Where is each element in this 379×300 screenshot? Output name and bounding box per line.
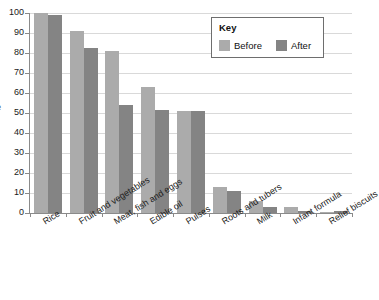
y-tick-label: 90	[14, 28, 24, 37]
legend: Key Before After	[211, 17, 324, 58]
bar-before	[177, 111, 191, 213]
y-tick-label: 20	[14, 168, 24, 177]
legend-label-before: Before	[234, 41, 262, 51]
y-tick-label: 70	[14, 68, 24, 77]
bar-after	[48, 15, 62, 213]
y-axis-tick-labels: 100 90 80 70 60 50 40 30 20 10 0	[0, 0, 24, 226]
y-tick-label: 100	[9, 8, 24, 17]
legend-entries: Before After	[219, 40, 330, 51]
bar-after	[191, 111, 205, 213]
legend-label-after: After	[291, 41, 311, 51]
bar-group	[30, 13, 66, 213]
bar-after	[84, 48, 98, 213]
legend-swatch-after-icon	[276, 40, 287, 51]
legend-swatch-before-icon	[219, 40, 230, 51]
y-tick-label: 10	[14, 188, 24, 197]
bar-group	[66, 13, 102, 213]
x-axis-category-labels: RiceFruit and vegetablesMeat, fish and e…	[0, 214, 358, 300]
bar-before	[213, 187, 227, 213]
bar-before	[34, 13, 48, 213]
legend-entry-after: After	[276, 40, 311, 51]
bar-before	[105, 51, 119, 213]
legend-entry-before: Before	[219, 40, 262, 51]
y-tick-label: 60	[14, 88, 24, 97]
bar-before	[70, 31, 84, 213]
y-tick-label: 80	[14, 48, 24, 57]
y-axis-title: e	[0, 103, 1, 112]
y-tick-label: 50	[14, 108, 24, 117]
y-tick-label: 40	[14, 128, 24, 137]
legend-title: Key	[219, 23, 236, 33]
y-tick-label: 30	[14, 148, 24, 157]
